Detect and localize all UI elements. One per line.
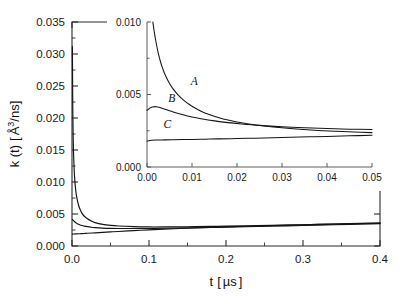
y-tick-label: 0.010 (36, 176, 65, 188)
y-tick-label: 0.030 (36, 48, 65, 60)
y-tick-label: 0.020 (36, 112, 65, 124)
main-y-axis-title: k (t)[Å3/ns] (6, 101, 22, 168)
inset-x-tick-label: 0.02 (227, 172, 247, 183)
inset-x-tick-label: 0.04 (317, 172, 337, 183)
figure-container: 0.00.10.20.30.4 0.0000.0050.0100.0150.02… (0, 0, 399, 302)
x-tick-label: 0.2 (218, 253, 234, 265)
inset-curve-label-b: B (168, 92, 175, 104)
inset-background (107, 0, 392, 191)
inset-plot: 0.000.010.020.030.040.05 0.0000.0050.010… (107, 0, 392, 191)
y-axis-bracket-close: ] (7, 101, 22, 105)
inset-x-tick-label: 0.01 (182, 172, 202, 183)
y-tick-label: 0.005 (36, 208, 65, 220)
x-tick-label: 0.3 (295, 253, 311, 265)
x-tick-label: 0.1 (141, 253, 157, 265)
x-axis-unit: µs (223, 274, 237, 289)
x-axis-bracket-open: [ (217, 274, 221, 289)
y-tick-label: 0.015 (36, 144, 65, 156)
y-tick-label: 0.000 (36, 240, 65, 252)
x-axis-bracket-close: ] (239, 274, 243, 289)
chart-svg: 0.00.10.20.30.4 0.0000.0050.0100.0150.02… (0, 0, 399, 302)
inset-x-tick-label: 0.05 (362, 172, 382, 183)
x-axis-symbol: t (210, 274, 214, 289)
y-tick-label: 0.035 (36, 16, 65, 28)
x-tick-label: 0.0 (64, 253, 80, 265)
inset-curve-label-a: A (190, 75, 199, 87)
y-axis-unit-base: Å (7, 126, 22, 135)
y-axis-unit-rest: /ns (7, 104, 22, 122)
inset-y-tick-label: 0.000 (116, 162, 141, 173)
y-axis-bracket-open: [ (7, 137, 22, 141)
inset-y-tick-label: 0.010 (116, 17, 141, 28)
x-tick-label: 0.4 (372, 253, 389, 265)
y-tick-label: 0.025 (36, 80, 65, 92)
inset-curve-label-c: C (163, 118, 171, 130)
inset-x-tick-label: 0.00 (137, 172, 157, 183)
inset-x-tick-label: 0.03 (272, 172, 292, 183)
y-axis-symbol: k (t) (7, 145, 22, 167)
y-axis-label-text: k (t)[Å3/ns] (6, 101, 22, 168)
inset-y-tick-label: 0.005 (116, 89, 141, 100)
